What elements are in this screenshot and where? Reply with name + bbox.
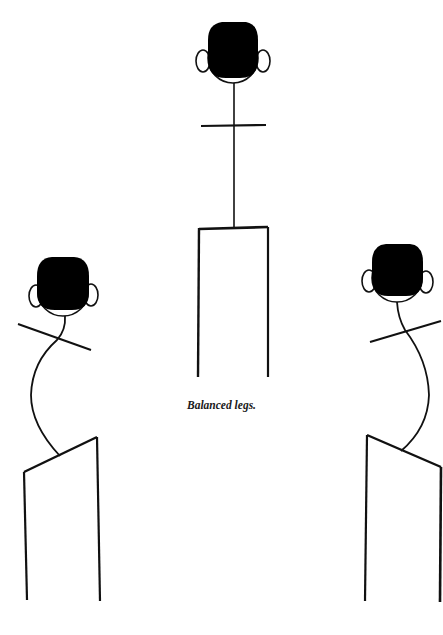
left-leg <box>24 472 27 600</box>
left-leg <box>365 435 367 601</box>
head-icon <box>208 22 258 78</box>
pelvis-line <box>24 437 97 472</box>
right-leg <box>97 437 100 601</box>
right-leg <box>440 467 441 602</box>
shoulder-line <box>370 321 441 342</box>
spine-curve <box>31 316 65 456</box>
figure-right <box>362 244 441 602</box>
illustration <box>0 0 443 635</box>
figure-caption: Balanced legs. <box>0 399 443 411</box>
pelvis-line <box>199 227 268 229</box>
figure-left <box>18 257 100 601</box>
shoulder-line <box>201 125 266 126</box>
figure-center <box>196 22 270 377</box>
head-icon <box>372 244 423 296</box>
shoulder-line <box>18 324 91 350</box>
left-leg <box>198 228 199 377</box>
spine-curve <box>397 302 429 451</box>
head-icon <box>37 257 89 310</box>
pelvis-line <box>367 435 441 467</box>
